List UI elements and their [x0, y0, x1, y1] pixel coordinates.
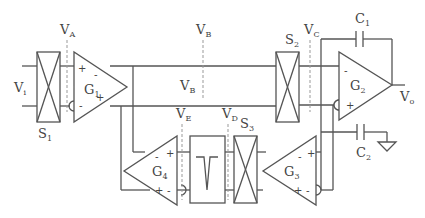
- label-ve: VE: [175, 106, 191, 123]
- switch-s1: [37, 52, 60, 122]
- svg-text:+: +: [78, 63, 86, 74]
- switch-s2: [276, 52, 299, 122]
- svg-text:-: -: [167, 185, 171, 196]
- svg-text:+: +: [294, 185, 302, 196]
- circuit-diagram: S1 + - - + G1 VA Vi VB VB S2 VC: [0, 0, 425, 218]
- svg-text:+: +: [155, 185, 163, 196]
- label-vb-mid: VB: [179, 78, 195, 95]
- label-s2: S2: [285, 32, 299, 49]
- notch-filter: [190, 136, 225, 203]
- svg-text:-: -: [306, 185, 310, 196]
- svg-text:-: -: [344, 65, 348, 76]
- label-va: VA: [59, 22, 75, 39]
- label-vi: Vi: [13, 80, 26, 97]
- label-vo: Vo: [399, 89, 414, 106]
- svg-text:-: -: [155, 151, 159, 162]
- label-c1: C1: [355, 11, 370, 28]
- label-vd: VD: [221, 106, 238, 123]
- label-vb-top: VB: [195, 22, 211, 39]
- svg-text:-: -: [79, 100, 83, 111]
- label-s3: S3: [240, 116, 254, 133]
- svg-text:+: +: [307, 148, 315, 159]
- switch-s3: [234, 136, 257, 203]
- svg-text:+: +: [346, 100, 354, 111]
- svg-text:+: +: [166, 148, 174, 159]
- input-wires: [22, 66, 37, 106]
- invert-bubble-g3: [316, 185, 321, 195]
- capacitor-c2: [321, 124, 387, 142]
- label-c2: C2: [356, 145, 371, 162]
- svg-text:-: -: [94, 69, 98, 80]
- label-vc: VC: [303, 22, 320, 39]
- svg-text:-: -: [298, 151, 302, 162]
- label-s1: S1: [38, 126, 52, 143]
- ground-icon: [378, 142, 396, 151]
